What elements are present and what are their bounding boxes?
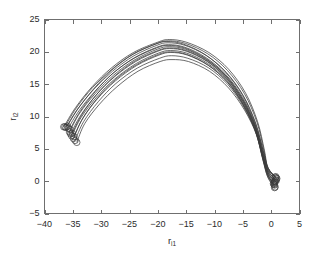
y-axis-label-subscript: i2 [12,112,19,117]
y-tick-label: 25 [29,14,39,24]
x-tick-label: −20 [150,219,165,229]
y-tick-label: 20 [29,46,39,56]
y-tick-label: −5 [29,208,39,218]
x-tick-label: −30 [94,219,109,229]
x-tick-label: 0 [269,219,274,229]
x-tick-label: 5 [297,219,302,229]
y-tick-label: 5 [34,143,39,153]
y-tick-label: 10 [29,111,39,121]
x-tick-label: −35 [65,219,80,229]
x-tick-label: −5 [238,219,248,229]
x-tick-label: −15 [179,219,194,229]
x-axis-label-subscript: i1 [171,240,176,247]
x-tick-label: −25 [122,219,137,229]
chart-canvas: −40−35−30−25−20−15−10−505 −50510152025 r… [0,0,315,266]
x-tick-label: −10 [207,219,222,229]
figure-root: −40−35−30−25−20−15−10−505 −50510152025 r… [0,0,315,266]
y-tick-label: 15 [29,79,39,89]
x-tick-label: −40 [37,219,52,229]
y-tick-label: 0 [34,176,39,186]
